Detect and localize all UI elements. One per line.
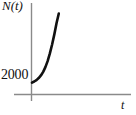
exponential-growth-figure: N(t) t 2000 [0, 0, 136, 115]
y-tick-label-2000: 2000 [1, 68, 28, 82]
x-axis-label: t [121, 99, 124, 111]
y-axis-label: N(t) [2, 0, 23, 12]
exponential-curve [32, 14, 59, 83]
plot-area [0, 0, 136, 115]
